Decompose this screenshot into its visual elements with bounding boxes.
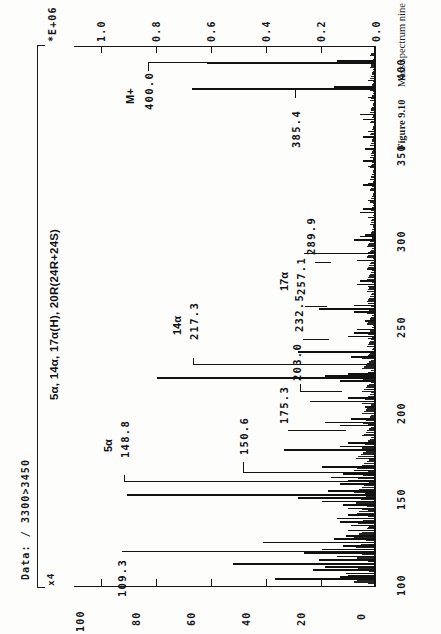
spectrum-peak — [363, 520, 375, 521]
peak-tag-148: 5α — [102, 439, 114, 452]
spectrum-peak — [369, 428, 375, 429]
spectrum-peak — [346, 573, 376, 575]
spectrum-peak — [373, 115, 375, 116]
figure-caption-text: Mass spectrum nine under C, see Figure 9… — [396, 0, 407, 87]
spectrum-peak — [371, 176, 375, 177]
figure-page: Data: / 3300>3450 x4 5α, 14α, 17α(H), 20… — [0, 0, 441, 634]
spectrum-peak — [372, 129, 375, 130]
spectrum-peak — [371, 294, 375, 295]
spectrum-peak — [364, 389, 375, 390]
spectrum-peak — [373, 172, 376, 173]
leader-line-148 — [124, 481, 374, 482]
spectrum-peak — [370, 439, 375, 440]
spectrum-peak — [374, 213, 375, 214]
spectrum-peak — [369, 342, 375, 343]
spectrum-peak — [368, 267, 375, 268]
spectrum-peak — [370, 330, 375, 331]
spectrum-peak — [371, 272, 375, 273]
spectrum-peak — [325, 375, 375, 377]
spectrum-peak — [370, 394, 375, 395]
spectrum-peak — [348, 373, 375, 375]
spectrum-peak — [362, 465, 375, 466]
spectrum-peak — [366, 451, 375, 452]
spectrum-peak — [373, 71, 375, 72]
spectrum-peak — [372, 96, 375, 97]
spectrum-peak — [373, 93, 375, 94]
spectrum-peak — [367, 301, 375, 302]
spectrum-peak — [370, 122, 375, 123]
intensity-tick-label: 0.8 — [151, 20, 162, 42]
spectrum-peak — [368, 299, 375, 300]
spectrum-peak — [373, 170, 375, 171]
spectrum-peak — [370, 55, 375, 56]
spectrum-peak — [371, 200, 375, 201]
leader-stem-217 — [193, 358, 194, 365]
spectrum-peak — [372, 196, 375, 197]
peak-label-400: 400.0 — [143, 72, 155, 110]
spectrum-peak — [373, 105, 376, 106]
spectrum-peak — [373, 325, 375, 326]
spectrum-peak — [371, 121, 375, 122]
spectrum-peak — [354, 492, 375, 493]
spectrum-peak — [368, 396, 375, 397]
percent-tick-label: 100 — [75, 610, 86, 632]
spectrum-peak — [127, 494, 375, 496]
spectrum-peak — [374, 191, 375, 192]
spectrum-peak — [367, 430, 375, 431]
spectrum-peak — [373, 138, 375, 139]
spectrum-peak — [370, 201, 375, 202]
spectrum-peak — [371, 110, 375, 111]
peak-label-217: 217.3 — [188, 302, 200, 340]
spectrum-peak — [372, 207, 375, 208]
spectrum-peak — [372, 141, 375, 142]
spectrum-peak — [374, 169, 375, 170]
spectrum-peak — [372, 117, 375, 118]
spectrum-peak — [370, 134, 375, 135]
spectrum-peak — [359, 533, 375, 534]
spectrum-peak — [371, 415, 375, 416]
data-header-text: Data: / 3300>3450 — [20, 459, 31, 580]
mass-spectrum-peaks — [74, 46, 375, 587]
spectrum-peak — [372, 315, 375, 316]
spectrum-peak — [367, 506, 375, 507]
spectrum-peak — [364, 411, 375, 412]
spectrum-peak — [371, 427, 376, 428]
spectrum-peak — [372, 139, 375, 140]
spectrum-peak — [369, 287, 375, 288]
peak-label-203: 203.0 — [291, 343, 303, 381]
spectrum-peak — [364, 463, 375, 464]
spectrum-peak — [368, 244, 375, 245]
leader-line-150 — [243, 472, 374, 473]
leader-stem-150 — [243, 462, 244, 473]
spectrum-peak — [372, 349, 375, 350]
peak-label-232: 232.5 — [293, 294, 305, 332]
peak-label-150: 150.6 — [238, 417, 250, 455]
spectrum-peak — [356, 458, 375, 459]
spectrum-peak — [356, 502, 375, 503]
spectrum-peak — [354, 581, 375, 582]
spectrum-peak — [372, 327, 375, 328]
spectrum-peak — [368, 583, 375, 584]
spectrum-peak — [369, 243, 375, 244]
spectrum-peak — [370, 145, 375, 146]
spectrum-peak — [365, 444, 375, 445]
spectrum-peak — [373, 182, 375, 183]
spectrum-peak — [363, 475, 375, 476]
spectrum-peak — [371, 133, 375, 134]
leader-stem-400 — [148, 62, 149, 71]
spectrum-peak — [371, 177, 375, 178]
spectrum-peak — [367, 346, 375, 347]
spectrum-peak — [368, 516, 375, 517]
figure-caption-label: Figure 9.10 — [396, 99, 407, 150]
spectrum-peak — [367, 323, 375, 324]
spectrum-peak — [362, 403, 376, 404]
spectrum-peak — [372, 231, 375, 232]
spectrum-peak — [371, 188, 375, 189]
leader-line-232 — [303, 339, 329, 340]
mz-tick-label: 300 — [396, 230, 407, 252]
peak-label-257: 257.1 — [295, 257, 307, 295]
leader-stem-203 — [300, 384, 301, 392]
spectrum-peak — [373, 348, 375, 349]
spectrum-peak — [373, 126, 375, 127]
spectrum-peak — [371, 392, 375, 393]
